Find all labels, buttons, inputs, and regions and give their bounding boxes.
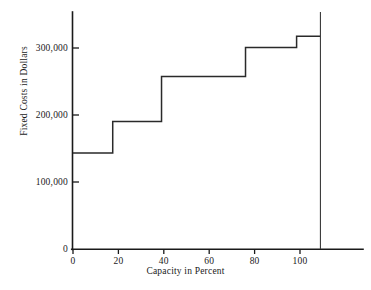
x-axis-title: Capacity in Percent xyxy=(0,266,371,276)
x-tick-label-20: 20 xyxy=(113,256,123,266)
y-tick-label-100000: 100,000 xyxy=(16,177,68,187)
x-tick-label-60: 60 xyxy=(204,256,214,266)
x-tick-label-80: 80 xyxy=(250,256,260,266)
fixed-costs-step-line xyxy=(73,36,320,153)
x-tick-label-100: 100 xyxy=(293,256,308,266)
y-tick-label-0: 0 xyxy=(16,244,68,254)
y-axis-title: Fixed Costs in Dollars xyxy=(19,26,29,156)
x-tick-label-40: 40 xyxy=(159,256,169,266)
x-tick-label-0: 0 xyxy=(71,256,76,266)
fixed-costs-step-chart: 300,000 200,000 100,000 0 0 20 40 60 80 … xyxy=(0,0,371,290)
